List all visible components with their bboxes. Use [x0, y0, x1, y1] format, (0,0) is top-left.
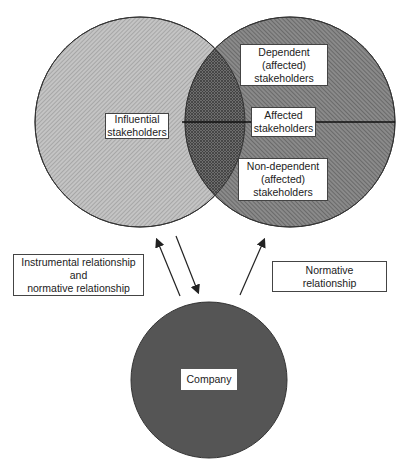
non-dependent-stakeholders-label: Non-dependent (affected) stakeholders — [238, 158, 328, 201]
arrow-company-to-affected — [240, 240, 264, 295]
affected-stakeholders-label: Affected stakeholders — [251, 107, 316, 137]
dependent-stakeholders-label: Dependent (affected) stakeholders — [240, 44, 328, 86]
label-line: (affected) — [239, 173, 327, 186]
normative-relationship-label: Normative relationship — [272, 261, 387, 292]
label-line: stakeholders — [106, 126, 168, 139]
label-line: Dependent — [241, 46, 327, 59]
label-line: (affected) — [241, 59, 327, 72]
label-line: and — [14, 269, 143, 282]
company-label: Company — [181, 369, 237, 390]
arrow-influential-to-company — [176, 236, 198, 292]
label-line: Normative — [273, 264, 386, 277]
label-line: stakeholders — [241, 72, 327, 85]
label-line: Company — [181, 373, 237, 386]
arrow-company-to-influential — [157, 240, 180, 296]
label-line: Non-dependent — [239, 160, 327, 173]
label-line: relationship — [273, 277, 386, 290]
label-line: Influential — [106, 113, 168, 126]
label-line: Instrumental relationship — [14, 256, 143, 269]
label-line: stakeholders — [239, 186, 327, 199]
influential-stakeholders-label: Influential stakeholders — [105, 113, 169, 139]
label-line: stakeholders — [252, 122, 315, 135]
label-line: Affected — [252, 109, 315, 122]
label-line: normative relationship — [14, 282, 143, 295]
instrumental-normative-relationship-label: Instrumental relationship and normative … — [13, 254, 144, 296]
stakeholder-diagram-canvas — [0, 0, 397, 472]
